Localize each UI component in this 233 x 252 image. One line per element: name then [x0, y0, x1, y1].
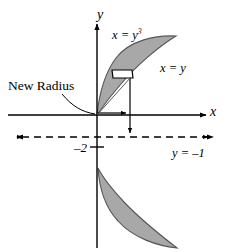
y-axis-label: y	[97, 8, 103, 22]
new-radius-label: New Radius	[8, 79, 74, 93]
curve-label-cubic: x = y3	[112, 28, 142, 42]
x-axis-label: x	[210, 105, 216, 119]
upper-shaded-region	[97, 36, 176, 115]
lower-shaded-region	[98, 168, 177, 248]
tick-label-minus-two: –2	[74, 141, 87, 154]
axis-of-revolution-arrow-right	[207, 134, 214, 139]
curve-label-cubic-text: x = y	[112, 28, 138, 42]
new-radius-leader	[62, 94, 95, 114]
curve-label-cubic-exponent: 3	[138, 27, 142, 36]
axis-of-revolution-arrow-left	[16, 134, 23, 139]
axis-of-revolution-label: y = –1	[172, 147, 205, 160]
curve-label-line: x = y	[160, 62, 186, 75]
representative-rectangle	[112, 70, 133, 78]
figure-container: y x x = y3 x = y New Radius –2 y = –1	[0, 0, 233, 252]
